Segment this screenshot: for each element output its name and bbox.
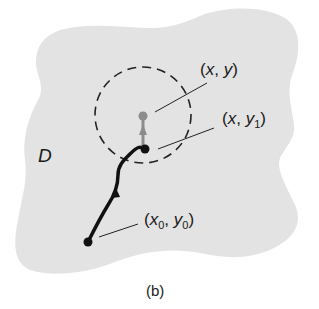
point-x0y0	[84, 238, 93, 247]
region-d	[15, 8, 298, 273]
diagram-canvas: D (x, y) (x, y1) (x0, y0) (b)	[0, 0, 319, 309]
region-label: D	[38, 145, 52, 166]
label-xy1: (x, y1)	[222, 109, 266, 130]
label-xy: (x, y)	[200, 60, 238, 79]
point-xy1	[141, 145, 150, 154]
point-xy	[139, 112, 148, 121]
figure-caption: (b)	[146, 282, 164, 299]
